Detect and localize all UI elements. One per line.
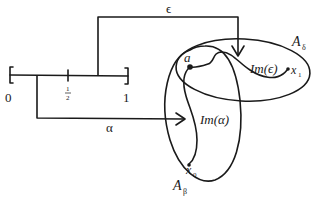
point-a	[187, 64, 193, 70]
epsilon-arrow-path	[98, 17, 238, 75]
label-zero: 0	[5, 90, 12, 105]
label-alpha: α	[106, 120, 113, 135]
label-x1: x	[290, 63, 297, 77]
label-a-delta-sub: δ	[302, 43, 306, 52]
label-x0: x	[185, 163, 192, 177]
label-x0-sub: 0	[193, 171, 197, 179]
point-x1	[286, 67, 290, 71]
label-point-a: a	[184, 50, 191, 65]
label-a-beta-sub: β	[183, 187, 187, 196]
label-half-den: 2	[66, 94, 70, 102]
label-im-alpha: Im(α)	[199, 112, 229, 127]
alpha-arrow-path	[37, 76, 184, 119]
label-a-delta: A	[291, 34, 301, 49]
label-x1-sub: 1	[298, 71, 302, 79]
interval-line	[10, 75, 128, 76]
im-alpha-curve	[184, 67, 197, 164]
diagram-canvas: 0 1 1 2 ϵ α A δ A β Im(ϵ) Im(α) a x 1 x …	[0, 0, 315, 198]
label-a-beta: A	[172, 178, 182, 193]
label-epsilon: ϵ	[166, 1, 171, 16]
label-im-epsilon: Im(ϵ)	[249, 61, 278, 76]
label-half-num: 1	[66, 85, 70, 93]
label-one: 1	[123, 90, 130, 105]
